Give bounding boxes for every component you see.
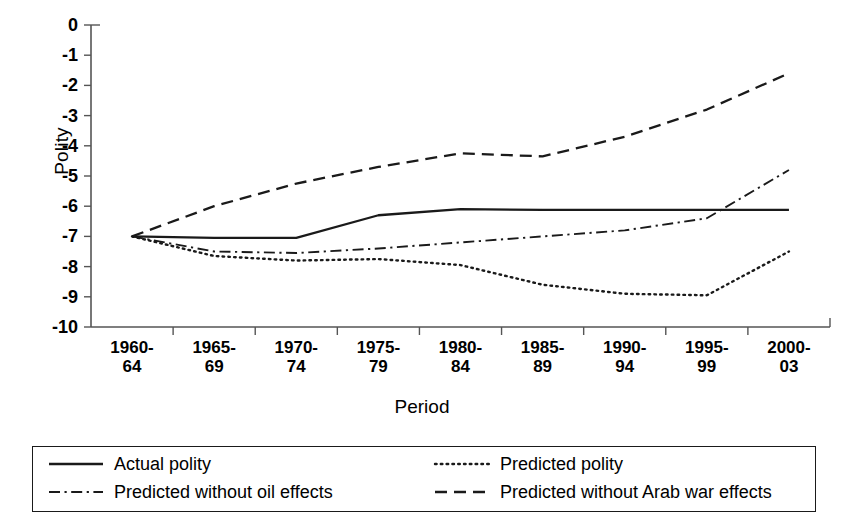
- legend-swatch-dotted-icon: [433, 457, 491, 471]
- x-tick-label-line: 99: [665, 357, 749, 376]
- x-tick-label-line: 1980-: [419, 338, 503, 357]
- legend-swatch-dashed-icon: [433, 485, 491, 499]
- x-tick-label: 1970-74: [254, 338, 338, 376]
- y-axis-title: Polity: [51, 91, 73, 211]
- legend-label: Predicted without Arab war effects: [500, 483, 772, 501]
- x-tick-label-line: 1965-: [172, 338, 256, 357]
- legend-swatch-dashdot-icon: [47, 485, 105, 499]
- y-tick-label: 0: [34, 16, 78, 34]
- series-line-0: [132, 209, 789, 238]
- chart-page: 0-1-2-3-4-5-6-7-8-9-10 Polity 1960-64196…: [0, 0, 844, 521]
- legend-item[interactable]: Predicted without oil effects: [47, 483, 333, 501]
- x-axis-title: Period: [0, 396, 844, 418]
- series-line-3: [132, 73, 789, 236]
- x-tick-label: 2000-03: [747, 338, 831, 376]
- y-tick-label: -7: [34, 227, 78, 245]
- x-tick-label-line: 1985-: [501, 338, 585, 357]
- x-tick-label-line: 1960-: [90, 338, 174, 357]
- x-tick-label-line: 64: [90, 357, 174, 376]
- x-tick-label-line: 2000-: [747, 338, 831, 357]
- y-tick-label: -1: [34, 46, 78, 64]
- x-tick-label-line: 89: [501, 357, 585, 376]
- y-tick-label: -9: [34, 288, 78, 306]
- chart-legend: Actual polityPredicted polityPredicted w…: [32, 446, 816, 512]
- x-tick-label-line: 74: [254, 357, 338, 376]
- x-tick-label: 1980-84: [419, 338, 503, 376]
- legend-label: Predicted without oil effects: [114, 483, 333, 501]
- x-tick-label: 1985-89: [501, 338, 585, 376]
- x-tick-label: 1995-99: [665, 338, 749, 376]
- y-tick-label: -10: [34, 318, 78, 336]
- series-line-1: [132, 236, 789, 295]
- legend-item[interactable]: Predicted polity: [433, 455, 623, 473]
- x-tick-label-line: 94: [583, 357, 667, 376]
- x-tick-label: 1965-69: [172, 338, 256, 376]
- x-tick-label-line: 1975-: [336, 338, 420, 357]
- legend-label: Predicted polity: [500, 455, 623, 473]
- x-tick-label: 1990-94: [583, 338, 667, 376]
- x-tick-label-line: 1995-: [665, 338, 749, 357]
- x-tick-label-line: 03: [747, 357, 831, 376]
- x-tick-label-line: 69: [172, 357, 256, 376]
- legend-swatch-solid-icon: [47, 457, 105, 471]
- x-tick-label-line: 79: [336, 357, 420, 376]
- x-tick-label: 1975-79: [336, 338, 420, 376]
- x-tick-label-line: 1990-: [583, 338, 667, 357]
- x-tick-label-line: 1970-: [254, 338, 338, 357]
- legend-label: Actual polity: [114, 455, 211, 473]
- y-tick-label: -8: [34, 258, 78, 276]
- legend-item[interactable]: Actual polity: [47, 455, 211, 473]
- x-tick-label: 1960-64: [90, 338, 174, 376]
- legend-item[interactable]: Predicted without Arab war effects: [433, 483, 772, 501]
- series-line-2: [132, 170, 789, 253]
- x-tick-label-line: 84: [419, 357, 503, 376]
